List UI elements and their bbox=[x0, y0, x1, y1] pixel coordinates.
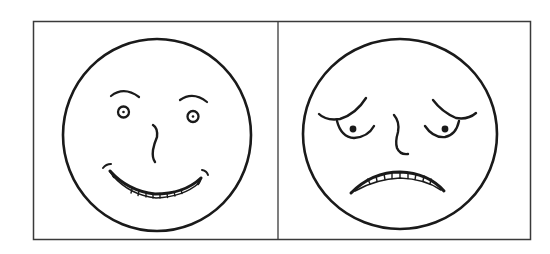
sad-left-eye bbox=[337, 121, 374, 138]
sad-nose bbox=[394, 115, 408, 154]
happy-right-dimple bbox=[202, 170, 208, 175]
sad-frown bbox=[351, 172, 444, 193]
happy-right-eyebrow bbox=[180, 96, 207, 102]
happy-face bbox=[63, 39, 251, 231]
sad-face bbox=[303, 39, 497, 229]
sad-right-eyebrow bbox=[433, 100, 476, 118]
happy-left-dimple bbox=[103, 164, 111, 168]
happy-left-eyebrow bbox=[111, 91, 139, 97]
sad-right-eye bbox=[425, 121, 459, 137]
sad-face-outline bbox=[303, 39, 497, 229]
happy-nose bbox=[153, 125, 157, 162]
faces-illustration bbox=[0, 0, 550, 254]
happy-smile bbox=[110, 171, 201, 198]
happy-left-eye bbox=[118, 107, 129, 118]
sad-left-eyebrow bbox=[319, 98, 366, 119]
happy-right-eye bbox=[188, 111, 199, 122]
